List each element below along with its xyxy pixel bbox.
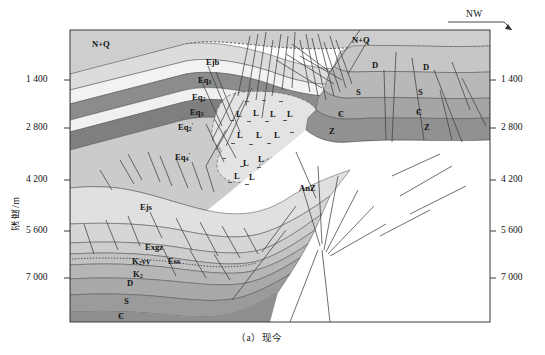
salt-dash-mark <box>245 101 249 102</box>
unit-label-c-left: Є <box>118 312 124 321</box>
unit-label-eq2: Eq2 <box>192 93 206 103</box>
y-tick-right-4200: 4 200 <box>501 175 522 185</box>
unit-label-eq2p: Eq2' <box>178 122 193 132</box>
unit-label-ess: Ess <box>168 257 180 266</box>
orientation-label-nw: NW <box>466 10 483 20</box>
unit-label-eq3: Eq3 <box>190 108 204 118</box>
unit-label-d-left: D <box>127 279 133 288</box>
salt-dash-mark <box>265 121 269 122</box>
unit-label-s-right: S <box>418 88 423 97</box>
salt-dash-mark <box>290 132 294 133</box>
unit-label-c-mid: Є <box>338 110 344 119</box>
salt-dash-mark <box>231 143 235 144</box>
unit-label-d-right: D <box>423 63 429 72</box>
salt-dash-mark <box>240 166 244 167</box>
unit-label-ejs: Ejs <box>140 203 152 212</box>
y-tick-right-2800: 2 800 <box>501 123 522 133</box>
unit-label-nq-right: N+Q <box>352 36 370 45</box>
salt-dash-mark <box>222 158 226 159</box>
unit-label-eq4p: Eq4' <box>175 152 190 162</box>
unit-label-salt-l-7: L <box>274 131 280 140</box>
salt-dash-mark <box>262 100 266 101</box>
unit-label-salt-l-1: L <box>236 110 242 119</box>
y-tick-right-5600: 5 600 <box>501 226 522 236</box>
salt-dash-mark <box>267 143 271 144</box>
unit-label-k2: K2 <box>133 270 143 280</box>
y-tick-right-7000: 7 000 <box>501 273 522 283</box>
unit-label-salt-l-3: L <box>270 110 276 119</box>
salt-dash-mark <box>245 184 249 185</box>
unit-label-salt-l-2: L <box>253 109 259 118</box>
unit-label-nq-left: N+Q <box>92 40 110 49</box>
unit-label-anz: AnZ <box>299 184 316 193</box>
salt-dash-mark <box>283 120 287 121</box>
salt-dash-mark <box>279 101 283 102</box>
salt-dash-mark <box>257 167 261 168</box>
y-tick-left-2800: 2 800 <box>26 123 47 133</box>
y-tick-left-5600: 5 600 <box>26 226 47 236</box>
unit-label-k2yy: K2yy <box>132 257 150 267</box>
unit-label-salt-l-8: L <box>258 155 264 164</box>
salt-dash-mark <box>247 121 251 122</box>
unit-label-salt-l-6: L <box>256 131 262 140</box>
y-tick-right-1400: 1 400 <box>501 75 522 85</box>
unit-label-d-mid: D <box>372 61 378 70</box>
salt-dash-mark <box>249 144 253 145</box>
unit-label-ejb: Ejb <box>206 58 219 67</box>
unit-label-salt-l-5: L <box>237 131 243 140</box>
unit-label-eq1: Eq1 <box>198 76 212 86</box>
unit-label-salt-l-11: L <box>249 173 255 182</box>
y-tick-left-4200: 4 200 <box>26 175 47 185</box>
unit-label-salt-l-10: L <box>234 172 240 181</box>
salt-dash-mark <box>230 120 234 121</box>
figure-caption: （a）现今 <box>236 334 283 344</box>
unit-label-s-mid: S <box>356 88 361 97</box>
unit-label-s-left: S <box>124 297 129 306</box>
geological-cross-section <box>0 0 545 355</box>
unit-label-salt-l-4: L <box>287 110 293 119</box>
y-axis-title: 深度/m <box>12 196 22 230</box>
unit-label-exgz: Exgz <box>145 243 163 252</box>
salt-dash-mark <box>228 182 232 183</box>
unit-label-z-right: Z <box>424 123 430 132</box>
unit-label-c-right: Є <box>416 108 422 117</box>
unit-label-z-mid: Z <box>329 127 335 136</box>
y-tick-left-7000: 7 000 <box>26 273 47 283</box>
y-tick-left-1400: 1 400 <box>26 75 47 85</box>
